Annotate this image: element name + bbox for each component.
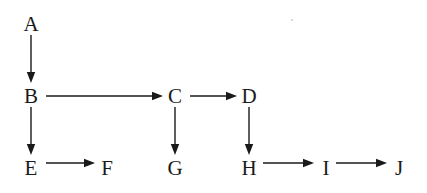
speck-1 [291,19,293,21]
node-label-h: H [241,156,256,180]
scan-artifacts-group [291,19,293,21]
arrowhead-icon [84,159,95,167]
arrowhead-icon [171,144,179,155]
arrowhead-icon [303,159,314,167]
node-label-j: J [395,156,403,180]
edge-b-to-c [46,92,163,100]
directed-graph: ABCDEFGHIJ [0,0,427,193]
edge-c-to-g [171,107,179,155]
arrowhead-icon [27,144,35,155]
edge-i-to-j [336,159,387,167]
edge-b-to-e [27,107,35,155]
edge-c-to-d [190,92,237,100]
arrowhead-icon [152,92,163,100]
node-label-c: C [168,84,182,108]
arrowhead-icon [226,92,237,100]
node-label-a: A [23,12,39,36]
node-label-i: I [323,156,330,180]
edge-a-to-b [27,35,35,83]
arrowhead-icon [245,144,253,155]
diagram-canvas: ABCDEFGHIJ [0,0,427,193]
node-label-e: E [25,156,38,180]
edges-group [27,35,387,167]
edge-h-to-i [263,159,314,167]
arrowhead-icon [376,159,387,167]
node-label-g: G [167,156,182,180]
arrowhead-icon [27,72,35,83]
edge-d-to-h [245,107,253,155]
node-label-b: B [24,84,38,108]
node-label-d: D [241,84,256,108]
edge-e-to-f [46,159,95,167]
node-label-f: F [101,156,113,180]
